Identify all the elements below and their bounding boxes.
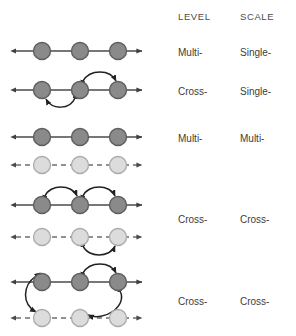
- row-3-node-lower-2: [72, 157, 89, 174]
- row-1-node-3: [110, 43, 127, 60]
- row-3-node-upper-1: [34, 129, 51, 146]
- column-header-scale: SCALE: [240, 11, 274, 22]
- row-3-node-upper-3: [110, 129, 127, 146]
- row-4-node-lower-3: [110, 229, 127, 246]
- row-5-arc-upper-n2-n3: [83, 264, 116, 273]
- row-4-node-lower-2: [72, 229, 89, 246]
- row-4-node-upper-3: [110, 197, 127, 214]
- row-5-node-upper-3: [110, 274, 127, 291]
- row-5-node-lower-3: [110, 310, 127, 327]
- row-2-arc-n2-n3: [83, 72, 116, 81]
- row-1-scale-label: Single-: [240, 47, 271, 58]
- row-5-group: [16, 264, 142, 327]
- row-1-node-1: [34, 43, 51, 60]
- row-2-arc-n2-n1: [46, 98, 75, 107]
- row-4-node-upper-2: [72, 197, 89, 214]
- row-2-group: [16, 72, 142, 107]
- row-5-level-label: Cross-: [178, 296, 207, 307]
- row-5-node-lower-2: [72, 310, 89, 327]
- row-4-arc-n2-n3: [83, 187, 115, 196]
- column-header-level: LEVEL: [178, 11, 211, 22]
- row-2-scale-label: Single-: [240, 86, 271, 97]
- row-3-group: [16, 129, 142, 174]
- row-3-scale-label: Multi-: [240, 133, 264, 144]
- row-1-node-2: [72, 43, 89, 60]
- diagram-figure: LEVEL SCALE Multi- Cross- Multi- Cross- …: [0, 0, 296, 336]
- row-4-node-lower-1: [34, 229, 51, 246]
- row-3-node-lower-1: [34, 157, 51, 174]
- row-4-arc-n1-n2: [45, 187, 77, 196]
- row-4-level-label: Cross-: [178, 214, 207, 225]
- row-3-node-upper-2: [72, 129, 89, 146]
- row-2-node-2: [72, 82, 89, 99]
- row-4-group: [16, 187, 142, 255]
- row-3-node-lower-3: [110, 157, 127, 174]
- row-4-arc-lower-n2-n3: [83, 246, 115, 255]
- row-3-level-label: Multi-: [178, 133, 202, 144]
- row-2-level-label: Cross-: [178, 86, 207, 97]
- row-1-group: [16, 43, 142, 60]
- row-5-node-upper-1: [34, 274, 51, 291]
- row-5-node-upper-2: [72, 274, 89, 291]
- row-4-node-upper-1: [34, 197, 51, 214]
- row-5-scale-label: Cross-: [240, 296, 269, 307]
- row-4-scale-label: Cross-: [240, 214, 269, 225]
- row-1-level-label: Multi-: [178, 47, 202, 58]
- row-2-node-1: [34, 82, 51, 99]
- row-2-node-3: [110, 82, 127, 99]
- row-5-node-lower-1: [34, 310, 51, 327]
